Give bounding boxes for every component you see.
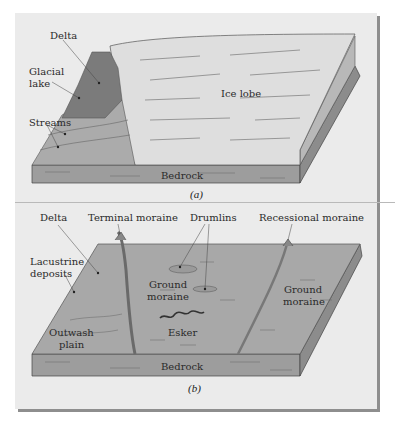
label-ground-moraine-1-line1: Ground <box>149 279 187 290</box>
label-streams: Streams <box>29 117 71 128</box>
label-drumlins: Drumlins <box>190 212 237 223</box>
label-bedrock-a: Bedrock <box>161 170 203 181</box>
label-lacustrine-line1: Lacustrine <box>30 256 84 267</box>
label-recessional-moraine: Recessional moraine <box>259 212 364 223</box>
label-ground-moraine-1-line2: moraine <box>147 291 189 302</box>
label-glacial-lake-line1: Glacial <box>29 66 64 77</box>
label-delta-a: Delta <box>50 30 77 41</box>
label-delta-b: Delta <box>40 212 67 223</box>
label-ground-moraine-2-line1: Ground <box>284 284 322 295</box>
label-lacustrine-line2: deposits <box>30 268 72 279</box>
label-terminal-moraine: Terminal moraine <box>88 212 178 223</box>
caption-a: (a) <box>190 188 203 200</box>
label-ground-moraine-2-line2: moraine <box>283 296 325 307</box>
label-ice-lobe: Ice lobe <box>221 88 261 99</box>
label-glacial-lake-line2: lake <box>29 78 50 89</box>
caption-b: (b) <box>188 382 201 394</box>
label-outwash-line2: plain <box>59 339 84 350</box>
label-outwash-line1: Outwash <box>49 327 94 338</box>
drumlin <box>169 265 197 273</box>
label-bedrock-b: Bedrock <box>161 361 203 372</box>
label-esker: Esker <box>168 327 197 338</box>
